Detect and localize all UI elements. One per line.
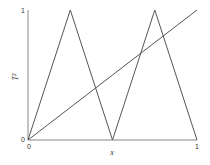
tent-map-chart: 1 0 0 1 x T² [0,0,210,165]
y-tick-1: 1 [21,7,25,14]
x-axis-label: x [109,148,114,157]
diagonal-line [28,10,197,140]
y-tick-0: 0 [21,136,25,143]
x-tick-1: 1 [195,143,199,150]
series-group [28,10,197,140]
y-axis-label: T² [11,73,20,80]
x-tick-0: 0 [27,143,31,150]
plot-area: 1 0 0 1 x T² [0,0,210,165]
